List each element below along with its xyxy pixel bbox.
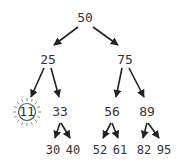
- node-56: 56: [104, 104, 120, 119]
- edge-89-82: [143, 123, 147, 138]
- edge-89-95: [148, 123, 159, 138]
- node-75: 75: [117, 52, 133, 67]
- node-89: 89: [139, 104, 155, 119]
- node-52: 52: [93, 143, 107, 157]
- edge-50-75: [93, 27, 118, 45]
- edge-56-52: [103, 123, 111, 138]
- edge-33-30: [55, 123, 60, 138]
- edge-50-25: [54, 27, 78, 45]
- edge-75-56: [116, 68, 122, 97]
- edge-33-40: [61, 123, 70, 138]
- edge-75-89: [129, 68, 144, 97]
- node-30: 30: [46, 143, 60, 157]
- edge-56-61: [112, 123, 118, 138]
- tree-diagram: 50 25 75 11 33 56 89 30 40 52 61 82 95: [0, 0, 180, 165]
- edge-25-33: [51, 68, 59, 97]
- node-61: 61: [113, 143, 127, 157]
- edges: [31, 27, 159, 138]
- node-25: 25: [40, 52, 56, 67]
- node-95: 95: [157, 143, 171, 157]
- node-82: 82: [137, 143, 151, 157]
- node-50: 50: [77, 10, 93, 25]
- edge-25-11: [31, 68, 44, 97]
- nodes: 50 25 75 11 33 56 89 30 40 52 61 82 95: [19, 10, 171, 157]
- node-33: 33: [52, 104, 68, 119]
- node-40: 40: [66, 143, 80, 157]
- node-11: 11: [19, 104, 35, 119]
